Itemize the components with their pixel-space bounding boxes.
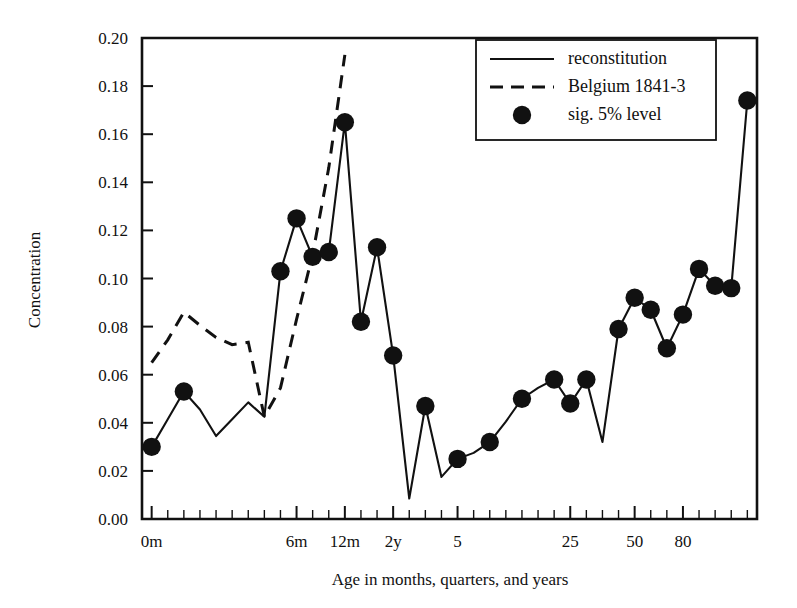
significant-point-marker [384, 346, 402, 364]
y-tick-label: 0.16 [98, 125, 128, 144]
concentration-line-chart: 0.000.020.040.060.080.100.120.140.160.18… [0, 0, 797, 608]
legend-label: reconstitution [568, 48, 667, 68]
significant-point-marker [175, 382, 193, 400]
legend-label: Belgium 1841-3 [568, 76, 686, 96]
significant-point-marker [577, 370, 595, 388]
significant-point-marker [481, 433, 499, 451]
x-tick-label: 25 [562, 532, 579, 551]
x-axis-title: Age in months, quarters, and years [332, 570, 569, 589]
significant-point-marker [625, 289, 643, 307]
y-axis-title: Concentration [25, 231, 44, 328]
significant-point-marker [336, 113, 354, 131]
y-tick-label: 0.12 [98, 221, 128, 240]
significant-point-marker [320, 243, 338, 261]
significant-point-marker [416, 397, 434, 415]
legend-label: sig. 5% level [568, 104, 661, 124]
significant-point-marker [690, 260, 708, 278]
significant-point-marker [352, 313, 370, 331]
x-tick-label: 2y [385, 532, 403, 551]
significant-point-marker [722, 279, 740, 297]
y-tick-label: 0.18 [98, 77, 128, 96]
x-tick-label: 12m [330, 532, 360, 551]
y-tick-label: 0.00 [98, 510, 128, 529]
x-tick-label: 0m [141, 532, 163, 551]
x-tick-label: 80 [674, 532, 691, 551]
significant-point-marker [271, 262, 289, 280]
significant-point-marker [513, 390, 531, 408]
chart-figure: 0.000.020.040.060.080.100.120.140.160.18… [0, 0, 797, 608]
significant-point-marker [368, 238, 386, 256]
significant-point-marker [674, 305, 692, 323]
legend-swatch-filled-circle [513, 106, 531, 124]
significant-point-marker [738, 91, 756, 109]
significant-point-marker [545, 370, 563, 388]
significant-point-marker [287, 209, 305, 227]
y-tick-label: 0.04 [98, 414, 128, 433]
x-tick-label: 5 [453, 532, 462, 551]
y-tick-label: 0.14 [98, 173, 128, 192]
significant-point-marker [303, 248, 321, 266]
significant-point-marker [561, 394, 579, 412]
y-tick-label: 0.06 [98, 366, 128, 385]
significant-point-marker [609, 320, 627, 338]
significant-point-marker [448, 450, 466, 468]
y-tick-label: 0.02 [98, 462, 128, 481]
chart-legend: reconstitutionBelgium 1841-3sig. 5% leve… [476, 40, 716, 140]
y-tick-label: 0.10 [98, 270, 128, 289]
significant-point-marker [706, 277, 724, 295]
significant-point-marker [642, 301, 660, 319]
x-tick-label: 6m [286, 532, 308, 551]
x-tick-label: 50 [626, 532, 643, 551]
significant-point-marker [658, 339, 676, 357]
significant-point-marker [142, 438, 160, 456]
y-tick-label: 0.08 [98, 318, 128, 337]
y-tick-label: 0.20 [98, 29, 128, 48]
